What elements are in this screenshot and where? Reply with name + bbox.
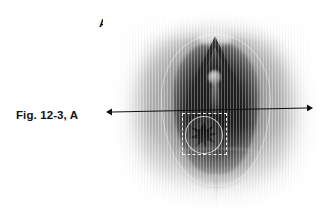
figure-root: Fig. 12-3, A A — [0, 0, 330, 224]
photo-bottom-fade — [103, 126, 327, 220]
median-streak — [211, 82, 219, 116]
figure-caption: Fig. 12-3, A — [16, 109, 78, 122]
clinical-photograph — [103, 8, 327, 220]
